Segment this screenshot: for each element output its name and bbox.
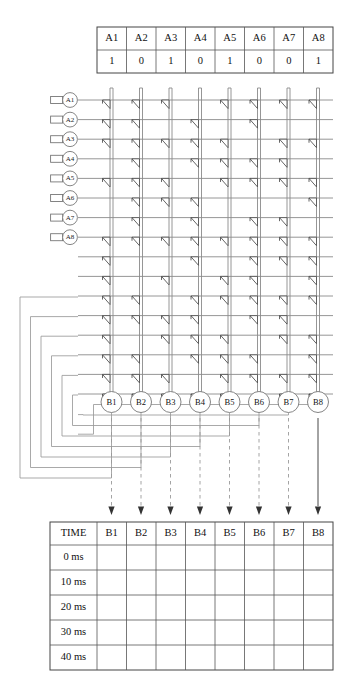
gate-connection-matrix — [103, 100, 317, 403]
input-tab-a8 — [51, 234, 63, 241]
buffer-gate — [221, 296, 229, 305]
input-node-label-a8: A8 — [66, 233, 75, 241]
output-node-label-b8: B8 — [313, 397, 323, 407]
buffer-gate — [191, 296, 199, 305]
buffer-gate — [250, 296, 258, 305]
time-table-header-time: TIME — [61, 527, 87, 538]
output-node-label-b3: B3 — [166, 397, 176, 407]
input-table-value-a1: 1 — [109, 55, 114, 66]
output-node-label-b5: B5 — [225, 397, 235, 407]
input-tab-a5 — [51, 175, 63, 182]
buffer-gate — [132, 120, 140, 129]
input-tab-a3 — [51, 136, 63, 143]
buffer-gate — [309, 276, 317, 285]
feedback-loop-1 — [20, 297, 112, 478]
buffer-gate — [309, 355, 317, 364]
buffer-gate — [103, 276, 111, 285]
buffer-gate — [191, 335, 199, 344]
feedback-loop-7 — [78, 413, 289, 416]
input-table-header-a6: A6 — [253, 32, 266, 43]
buffer-gate — [309, 139, 317, 148]
buffer-gate — [162, 178, 170, 187]
time-table-header-b1: B1 — [106, 527, 118, 538]
buffer-gate — [221, 374, 229, 383]
buffer-gate — [103, 120, 111, 129]
buffer-gate — [103, 355, 111, 364]
output-arrowhead — [226, 507, 232, 516]
buffer-gate — [309, 237, 317, 246]
time-table-header-b4: B4 — [194, 527, 207, 538]
buffer-gate — [250, 374, 258, 383]
output-arrowhead — [167, 507, 173, 516]
buffer-gate — [250, 355, 258, 364]
input-node-label-a2: A2 — [66, 116, 75, 124]
buffer-gate — [191, 316, 199, 325]
output-arrowhead — [256, 507, 262, 516]
input-table-value-a4: 0 — [198, 55, 203, 66]
time-table-time-30ms: 30 ms — [61, 626, 86, 637]
buffer-gate — [103, 335, 111, 344]
buffer-gate — [280, 296, 288, 305]
input-tab-a2 — [51, 116, 63, 123]
buffer-gate — [191, 120, 199, 129]
buffer-gate — [309, 257, 317, 266]
output-arrowhead — [197, 507, 203, 516]
input-node-label-a6: A6 — [66, 194, 75, 202]
input-node-label-a7: A7 — [66, 214, 75, 222]
time-table-border — [50, 522, 333, 670]
input-node-list: A1A2A3A4A5A6A7A8 — [51, 93, 78, 245]
buffer-gate — [162, 374, 170, 383]
output-arrowhead — [138, 507, 144, 516]
input-table-value-a5: 1 — [227, 55, 232, 66]
buffer-gate — [280, 374, 288, 383]
input-table-value-a2: 0 — [139, 55, 144, 66]
buffer-gate — [132, 139, 140, 148]
buffer-gate — [309, 374, 317, 383]
buffer-gate — [280, 335, 288, 344]
input-table-header-a7: A7 — [282, 32, 295, 43]
output-node-label-b2: B2 — [136, 397, 146, 407]
time-table-header-b2: B2 — [135, 527, 147, 538]
buffer-gate — [191, 198, 199, 207]
buffer-gate — [309, 198, 317, 207]
input-table-value-a3: 1 — [168, 55, 173, 66]
buffer-gate — [280, 257, 288, 266]
buffer-gate — [221, 335, 229, 344]
buffer-gate — [103, 316, 111, 325]
output-node-label-b4: B4 — [195, 397, 206, 407]
input-table-header-a5: A5 — [223, 32, 236, 43]
buffer-gate — [280, 159, 288, 168]
buffer-gate — [132, 296, 140, 305]
input-table-header-a4: A4 — [194, 32, 208, 43]
buffer-gate — [132, 159, 140, 168]
buffer-gate — [250, 178, 258, 187]
buffer-gate — [132, 198, 140, 207]
buffer-gate — [103, 257, 111, 266]
buffer-gate — [221, 355, 229, 364]
input-node-label-a1: A1 — [66, 96, 75, 104]
buffer-gate — [103, 237, 111, 246]
buffer-gate — [103, 296, 111, 305]
output-node-list: B1B2B3B4B5B6B7B8 — [101, 392, 329, 413]
input-tab-a7 — [51, 214, 63, 221]
buffer-gate — [103, 139, 111, 148]
buffer-gate — [132, 316, 140, 325]
buffer-gate — [221, 178, 229, 187]
time-table-time-20ms: 20 ms — [61, 601, 86, 612]
buffer-gate — [162, 198, 170, 207]
time-table-time-10ms: 10 ms — [61, 576, 86, 587]
input-table-value-a7: 0 — [286, 55, 291, 66]
buffer-gate — [191, 218, 199, 227]
buffer-gate — [162, 100, 170, 109]
buffer-gate — [132, 178, 140, 187]
buffer-gate — [250, 257, 258, 266]
buffer-gate — [309, 296, 317, 305]
output-node-label-b1: B1 — [107, 397, 117, 407]
time-table-header-b5: B5 — [224, 527, 236, 538]
buffer-gate — [250, 218, 258, 227]
time-results-table: TIMEB1B2B3B4B5B6B7B80 ms10 ms20 ms30 ms4… — [50, 522, 333, 670]
time-table-header-b7: B7 — [283, 527, 295, 538]
buffer-gate — [250, 316, 258, 325]
output-arrowhead — [315, 507, 321, 516]
buffer-gate — [221, 237, 229, 246]
